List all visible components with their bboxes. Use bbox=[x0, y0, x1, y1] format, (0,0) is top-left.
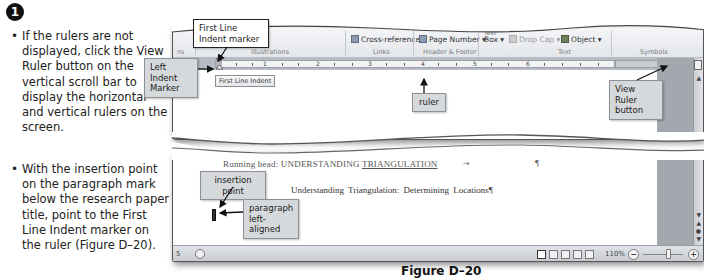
select-browse-object-icon[interactable]: ● bbox=[696, 227, 701, 234]
scroll-up-icon[interactable]: ▲ bbox=[696, 74, 701, 81]
ruler-tick bbox=[456, 63, 457, 66]
group-label-links: Links bbox=[373, 48, 390, 56]
text-box-button[interactable]: Box ▾ bbox=[484, 35, 504, 44]
cross-reference-icon bbox=[351, 35, 359, 43]
callout-left-indent-marker: Left Indent Marker bbox=[144, 58, 198, 98]
page-indicator[interactable]: 5 bbox=[176, 250, 180, 258]
tab-character-icon: → bbox=[463, 159, 470, 168]
zoom-slider-track[interactable] bbox=[643, 254, 683, 255]
vertical-scrollbar[interactable] bbox=[693, 58, 703, 140]
zoom-out-button[interactable]: − bbox=[628, 249, 639, 260]
group-label-partial: ns bbox=[177, 48, 185, 56]
callout-first-line-indent-marker: First Line Indent marker bbox=[193, 19, 269, 48]
step-number-badge: 1 bbox=[6, 3, 24, 21]
object-icon bbox=[561, 35, 569, 43]
ruler-tick bbox=[386, 63, 387, 66]
ruler-number-3: 3 bbox=[368, 60, 372, 67]
full-screen-reading-view-button[interactable] bbox=[549, 250, 558, 259]
insertion-point-paragraph-mark[interactable] bbox=[212, 209, 216, 221]
torn-edge-middle bbox=[172, 132, 704, 160]
ruler-tick bbox=[562, 63, 563, 66]
drop-cap-button[interactable]: Drop Cap ▾ bbox=[509, 35, 560, 44]
cross-reference-label: Cross-reference bbox=[361, 35, 420, 44]
ruler-right-margin bbox=[615, 60, 659, 68]
drop-cap-label: Drop Cap ▾ bbox=[519, 35, 560, 44]
web-layout-view-button[interactable] bbox=[561, 250, 570, 259]
proofing-icon[interactable] bbox=[195, 249, 205, 259]
running-head-text: Running head: UNDERSTANDING bbox=[223, 159, 362, 169]
running-head: Running head: UNDERSTANDING TRIANGULATIO… bbox=[223, 159, 438, 169]
group-label-text: Text bbox=[558, 48, 571, 56]
ruler-tick bbox=[404, 63, 405, 66]
ruler-number-1: 1 bbox=[263, 60, 267, 67]
figure-caption: Figure D–20 bbox=[401, 264, 481, 278]
ruler-tick bbox=[508, 63, 509, 66]
ruler-tick bbox=[544, 63, 545, 66]
previous-page-icon[interactable]: ▲ bbox=[696, 219, 701, 226]
ruler-number-2: 2 bbox=[316, 60, 320, 67]
ruler-tick bbox=[334, 63, 335, 66]
callout-ruler: ruler bbox=[412, 93, 446, 112]
ruler-tick bbox=[438, 63, 439, 66]
object-label: Object ▾ bbox=[571, 35, 602, 44]
horizontal-ruler[interactable]: 1 2 3 4 5 6 bbox=[215, 60, 615, 68]
status-bar: 5 110% − + bbox=[173, 245, 704, 262]
outline-view-button[interactable] bbox=[573, 250, 582, 259]
draft-view-button[interactable] bbox=[585, 250, 594, 259]
running-head-underlined-text: TRIANGULATION bbox=[362, 159, 438, 169]
ruler-tick bbox=[282, 63, 283, 66]
next-page-icon[interactable]: ▼ bbox=[696, 235, 701, 242]
vertical-scrollbar[interactable]: ▼ ▲ ● ▼ bbox=[693, 153, 703, 245]
ruler-tick bbox=[298, 63, 299, 66]
page-number-icon bbox=[419, 35, 427, 43]
ruler-tick bbox=[598, 63, 599, 66]
callout-insertion-point: insertion point bbox=[200, 171, 266, 200]
first-line-indent-marker-icon[interactable] bbox=[216, 58, 223, 70]
cross-reference-button[interactable]: Cross-reference bbox=[351, 35, 420, 44]
ruler-number-5: 5 bbox=[473, 60, 477, 67]
print-layout-view-button[interactable] bbox=[537, 250, 546, 259]
ruler-tick bbox=[352, 63, 353, 66]
object-button[interactable]: Object ▾ bbox=[561, 35, 602, 44]
paper-title: Understanding Triangulation: Determining… bbox=[291, 185, 493, 195]
zoom-level[interactable]: 110% bbox=[605, 250, 625, 258]
callout-view-ruler-button: View Ruler button bbox=[609, 80, 663, 120]
ruler-tick bbox=[491, 63, 492, 66]
ruler-number-6: 6 bbox=[526, 60, 530, 67]
ruler-number-4: 4 bbox=[421, 60, 425, 67]
scroll-down-icon[interactable]: ▼ bbox=[696, 211, 701, 218]
ruler-tick bbox=[580, 63, 581, 66]
first-line-indent-tooltip: First Line Indent bbox=[215, 75, 275, 87]
group-label-symbols: Symbols bbox=[640, 48, 668, 56]
zoom-in-button[interactable]: + bbox=[688, 249, 699, 260]
page-number-button[interactable]: Page Number ▾ bbox=[419, 35, 486, 44]
instruction-bullet-2: With the insertion point on the paragrap… bbox=[10, 162, 170, 253]
group-label-illustrations: Illustrations bbox=[251, 48, 289, 56]
drop-cap-icon bbox=[509, 35, 517, 43]
ruler-tick bbox=[252, 63, 253, 66]
group-label-header-footer: Header & Footer bbox=[423, 48, 477, 56]
callout-paragraph-left-aligned: paragraph left-aligned bbox=[243, 199, 299, 239]
view-ruler-button[interactable] bbox=[694, 60, 702, 70]
zoom-slider-thumb[interactable] bbox=[666, 249, 671, 259]
ruler-tick bbox=[236, 63, 237, 66]
